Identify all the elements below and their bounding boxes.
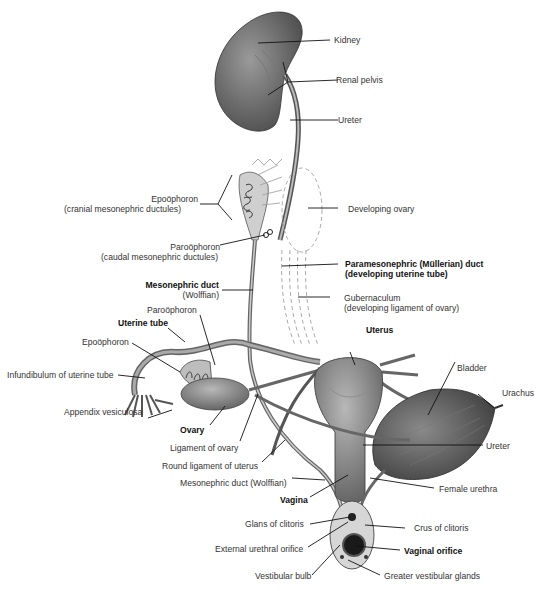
label-epoophoron: Epoöphoron [82, 337, 129, 347]
label-mesonephric-duct: Mesonephric duct [145, 280, 219, 290]
label-uterus: Uterus [366, 325, 393, 335]
label-vestibular-bulb: Vestibular bulb [255, 571, 311, 581]
kidney-shape [215, 12, 302, 131]
label-ureter-top: Ureter [338, 115, 362, 125]
label-gubernaculum-sub: (developing ligament of ovary) [344, 303, 459, 313]
label-vaginal-orifice: Vaginal orifice [404, 546, 462, 556]
label-renal-pelvis: Renal pelvis [336, 75, 383, 85]
mesonephros-shape [239, 159, 282, 240]
label-appendix-vesiculosa: Appendix vesiculosa [64, 407, 142, 417]
label-vagina: Vagina [280, 495, 308, 505]
label-developing-ovary: Developing ovary [348, 204, 414, 214]
uterus-shape [315, 358, 383, 503]
label-paroophoron: Paroöphoron [147, 305, 197, 315]
ovary-shape [181, 378, 249, 410]
anatomy-illustration: 000 [0, 0, 543, 591]
label-bladder: Bladder [457, 363, 487, 373]
label-ligament-of-ovary: Ligament of ovary [170, 443, 238, 453]
label-infundibulum: Infundibulum of uterine tube [7, 370, 114, 380]
vaginal-orifice-shape [343, 534, 365, 556]
label-paroophoron-caudal-sub: (caudal mesonephric ductules) [101, 252, 218, 262]
label-greater-vestibular-glands: Greater vestibular glands [384, 571, 480, 581]
label-kidney: Kidney [334, 35, 360, 45]
label-ureter-bottom: Ureter [486, 441, 510, 451]
label-ovary: Ovary [180, 425, 204, 435]
label-paramesonephric-duct-sub: (developing uterine tube) [345, 269, 448, 279]
label-epoophoron-cranial-sub: (cranial mesonephric ductules) [64, 204, 181, 214]
label-round-ligament: Round ligament of uterus [162, 461, 258, 471]
label-urachus: Urachus [502, 388, 534, 398]
label-mesonephric-duct-wolffian: Mesonephric duct (Wolffian) [180, 478, 287, 488]
label-external-urethral-orifice: External urethral orifice [215, 544, 303, 554]
label-uterine-tube: Uterine tube [118, 318, 168, 328]
label-paroophoron-caudal: Paroöphoron [170, 242, 220, 252]
label-crus-clitoris: Crus of clitoris [414, 523, 468, 533]
label-mesonephric-duct-sub: (Wolffian) [183, 290, 219, 300]
label-epoophoron-cranial: Epoöphoron [151, 194, 198, 204]
label-female-urethra: Female urethra [439, 484, 497, 494]
label-paramesonephric-duct: Paramesonephric (Müllerian) duct [345, 259, 484, 269]
label-gubernaculum: Gubernaculum [344, 293, 400, 303]
label-glans-clitoris: Glans of clitoris [245, 519, 304, 529]
